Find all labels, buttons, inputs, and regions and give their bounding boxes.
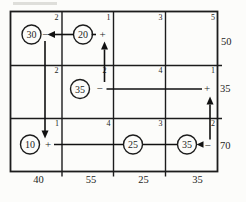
allocation-value-r1c1: 30 xyxy=(27,29,37,40)
sign-r1c1: − xyxy=(42,28,48,40)
allocation-value-r3c3: 25 xyxy=(128,139,138,150)
sign-r2c2: − xyxy=(96,82,102,94)
supply-label-r2: 35 xyxy=(220,83,231,94)
demand-label-c4: 35 xyxy=(192,174,203,185)
demand-label-c2: 55 xyxy=(86,174,97,185)
demand-labels: 40 55 25 35 xyxy=(33,174,203,185)
arrowhead-left-r3c4 xyxy=(197,141,204,148)
loop-arrows xyxy=(42,31,214,148)
arrowhead-up-r2c4 xyxy=(207,97,214,105)
demand-label-c1: 40 xyxy=(33,174,44,185)
transportation-tableau: 2 1 3 5 2 2 4 1 1 4 3 2 30 20 35 10 25 3… xyxy=(0,0,246,202)
cost-r3c2: 4 xyxy=(107,119,111,128)
cost-r2c1: 2 xyxy=(55,66,59,75)
cost-r1c4: 5 xyxy=(211,13,215,22)
cost-r2c4: 1 xyxy=(211,66,215,75)
cost-r3c3: 3 xyxy=(159,119,163,128)
demand-label-c3: 25 xyxy=(138,174,149,185)
arrowhead-up-r1c2 xyxy=(101,42,108,50)
supply-label-r3: 70 xyxy=(220,140,231,151)
cost-r1c1: 2 xyxy=(55,13,59,22)
sign-r2c4: + xyxy=(204,82,210,94)
cost-r1c3: 3 xyxy=(159,13,163,22)
sign-r1c2: + xyxy=(99,28,105,40)
cost-r1c2: 1 xyxy=(107,13,111,22)
supply-labels: 50 35 70 xyxy=(220,36,232,151)
allocation-value-r1c2: 20 xyxy=(78,29,88,40)
sign-r3c4: − xyxy=(204,139,210,151)
cost-r3c4: 2 xyxy=(211,119,215,128)
cost-r3c1: 1 xyxy=(55,119,59,128)
allocation-value-r3c1: 10 xyxy=(25,139,35,150)
figure-canvas: 2 1 3 5 2 2 4 1 1 4 3 2 30 20 35 10 25 3… xyxy=(0,0,246,202)
sign-r3c1: + xyxy=(45,138,51,150)
allocation-value-r2c2: 35 xyxy=(75,84,85,95)
scan-smudge xyxy=(13,2,57,5)
supply-label-r1: 50 xyxy=(221,36,232,47)
arrowhead-left-r1c1 xyxy=(48,31,56,38)
cost-r2c3: 4 xyxy=(159,66,163,75)
allocation-value-r3c4: 35 xyxy=(182,139,192,150)
